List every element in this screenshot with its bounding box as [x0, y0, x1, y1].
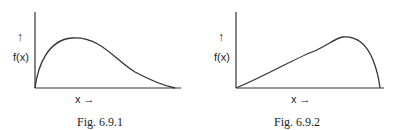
- x-axis-label: x →: [291, 94, 311, 105]
- skewed-left-plot: [197, 0, 394, 130]
- x-axis-label: x →: [75, 94, 95, 105]
- y-axis-label: f(x): [13, 52, 29, 63]
- figure-caption: Fig. 6.9.2: [274, 116, 320, 128]
- y-axis-label: f(x): [214, 52, 230, 63]
- figure-6-9-2: ↑ f(x) x → Fig. 6.9.2: [197, 0, 394, 130]
- distribution-curve: [35, 38, 175, 88]
- y-axis-arrow: ↑: [17, 31, 23, 43]
- skewed-right-plot: [0, 0, 197, 130]
- distribution-curve: [236, 37, 380, 88]
- figure-6-9-1: ↑ f(x) x → Fig. 6.9.1: [0, 0, 197, 130]
- figure-caption: Fig. 6.9.1: [77, 116, 123, 128]
- y-axis-arrow: ↑: [218, 31, 224, 43]
